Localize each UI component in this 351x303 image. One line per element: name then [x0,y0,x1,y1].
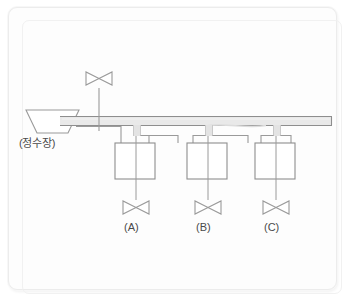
branch-tee-icon-c [274,125,281,136]
valve-label-c: (C) [264,222,279,233]
butterfly-valve-icon-top[interactable] [86,72,112,85]
butterfly-valve-icon-c[interactable] [263,201,289,214]
branch-assembly-b [187,125,248,200]
piping-schematic [0,0,351,303]
diagram-page: (정수장) (A) (B) (C) [0,0,351,303]
meter-box-icon-a [115,143,155,179]
branch-tee-icon-b [206,125,213,136]
reservoir-label: (정수장) [19,138,55,149]
meter-box-icon-c [255,143,295,179]
valve-label-a: (A) [124,222,139,233]
valve-label-b: (B) [196,222,211,233]
main-pipe-icon [60,117,332,126]
branch-assembly-c [255,125,295,200]
branch-assembly-a [76,125,178,200]
butterfly-valve-icon-b[interactable] [195,201,221,214]
branch-tee-icon-a [134,125,141,136]
meter-box-icon-b [187,143,227,179]
butterfly-valve-icon-a[interactable] [123,201,149,214]
